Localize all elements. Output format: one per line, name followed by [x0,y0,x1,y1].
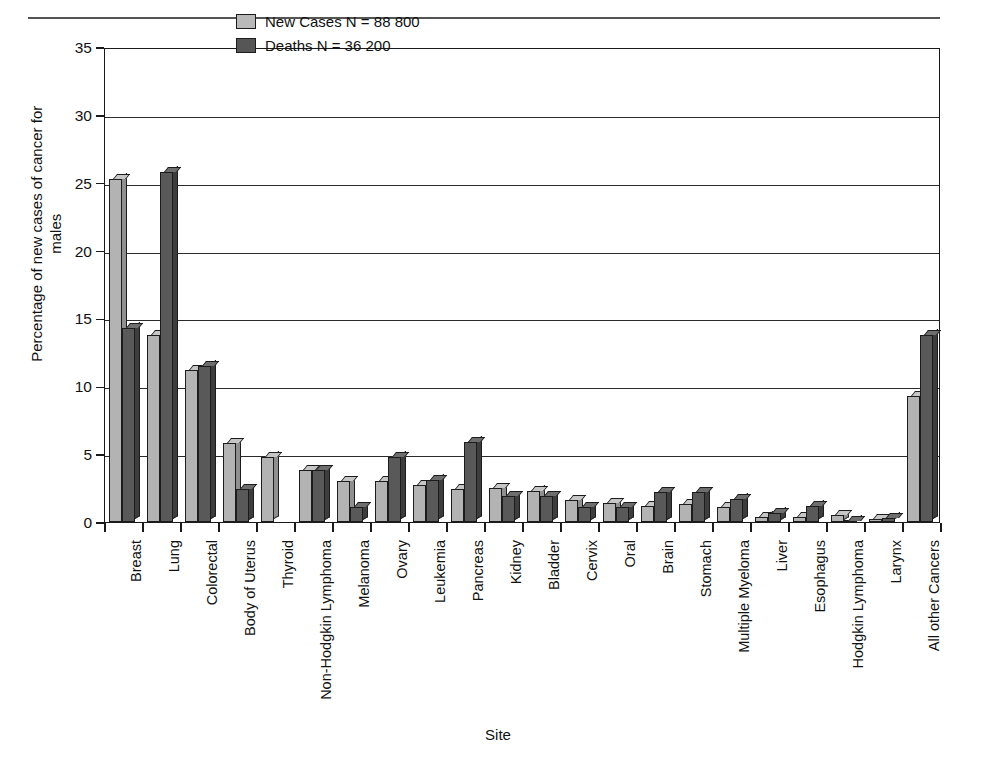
bar-deaths [768,513,781,523]
bar-front-face [527,491,540,522]
gridline-10 [105,388,939,389]
bar-deaths [540,496,553,522]
bar-side-face [401,451,406,519]
x-tick-17 [750,523,752,532]
x-tick-11 [522,523,524,532]
bar-front-face [730,499,743,522]
x-category-label: Ovary [395,540,410,579]
bar-front-face [426,480,439,522]
bar-front-face [350,507,363,522]
bar-top-face [886,513,903,518]
bar-front-face [565,500,578,522]
x-tick-end [940,523,942,532]
bar-deaths [198,366,211,522]
bar-top-face [227,438,244,443]
bar-top-face [341,476,358,481]
bar-deaths [236,489,249,522]
bar-new-cases [261,457,274,522]
bar-top-face [582,502,599,507]
bar-new-cases [641,506,654,522]
bar-front-face [413,485,426,522]
bar-top-face [531,486,548,491]
bar-new-cases [147,335,160,522]
bar-deaths [578,507,591,522]
bar-front-face [388,457,401,522]
bar-front-face [679,504,692,522]
bar-deaths [692,492,705,522]
bar-top-face [544,491,561,496]
bar-deaths [464,442,477,522]
bar-side-face [439,475,444,520]
bar-new-cases [451,489,464,522]
bar-front-face [806,506,819,522]
bar-deaths [920,335,933,522]
bar-top-face [493,483,510,488]
y-tick-label-5: 5 [56,447,92,463]
bar-new-cases [109,179,122,522]
bar-top-face [569,495,586,500]
bar-side-face [211,361,216,520]
bar-new-cases [603,503,616,522]
bar-top-face [430,475,447,480]
y-tick-35 [96,47,104,49]
y-tick-0 [96,522,104,524]
bar-deaths [312,470,325,522]
gridline-30 [105,117,939,118]
bar-new-cases [831,515,844,522]
bar-front-face [869,519,882,522]
bar-new-cases [679,504,692,522]
x-tick-13 [598,523,600,532]
x-tick-14 [636,523,638,532]
bar-new-cases [755,517,768,522]
bar-front-face [578,507,591,522]
plot-area [104,48,940,523]
y-tick-label-30: 30 [56,108,92,124]
bar-front-face [768,513,781,523]
x-category-label: Lung [167,540,182,572]
x-category-label: Body of Uterus [243,540,258,636]
bar-new-cases [223,443,236,522]
bar-new-cases [413,485,426,522]
legend-swatch-deaths-icon [236,38,256,53]
x-tick-9 [446,523,448,532]
bar-deaths [160,172,173,522]
bar-deaths [730,499,743,522]
y-tick-label-20: 20 [56,244,92,260]
legend-label-new-cases: New Cases N = 88 800 [265,13,420,30]
bar-side-face [274,451,279,519]
x-tick-16 [712,523,714,532]
legend-label-deaths: Deaths N = 36 200 [265,37,391,54]
bar-new-cases [869,519,882,522]
x-category-label: Hodgkin Lymphoma [851,540,866,668]
y-tick-label-25: 25 [56,176,92,192]
bar-new-cases [907,396,920,522]
bar-front-face [337,481,350,522]
x-axis-title: Site [0,726,996,743]
x-category-label: Pancreas [471,540,486,601]
bar-front-face [122,328,135,522]
bar-top-face [468,437,485,442]
bar-front-face [109,179,122,522]
x-category-label: Liver [775,540,790,571]
x-tick-8 [408,523,410,532]
bar-new-cases [527,491,540,522]
bar-front-face [755,517,768,522]
bar-front-face [375,481,388,522]
x-tick-10 [484,523,486,532]
x-category-label: Stomach [699,540,714,597]
y-tick-label-0: 0 [56,515,92,531]
x-tick-12 [560,523,562,532]
bar-top-face [924,330,941,335]
bar-deaths [844,521,857,523]
bar-top-face [810,501,827,506]
bar-front-face [920,335,933,522]
y-tick-20 [96,251,104,253]
bar-deaths [502,496,515,522]
bar-front-face [223,443,236,522]
x-tick-5 [294,523,296,532]
bar-side-face [325,465,330,519]
bar-deaths [882,518,895,522]
bar-top-face [696,487,713,492]
header-divider [28,17,940,19]
x-tick-0 [104,523,106,532]
